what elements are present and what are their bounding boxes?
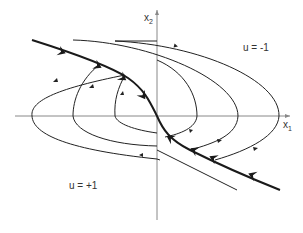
x2-axis-label: x2 — [144, 12, 153, 25]
u-minus-arrows — [174, 44, 258, 151]
x2-axis-arrow-icon — [155, 10, 159, 15]
u-plus-trajectories — [32, 64, 160, 160]
region-label-u-minus: u = -1 — [243, 42, 269, 53]
x1-axis-label: x1 — [283, 119, 292, 132]
x1-axis-arrow-icon — [285, 114, 290, 118]
switching-curve — [32, 40, 280, 190]
region-label-u-plus: u = +1 — [69, 180, 98, 191]
phase-portrait: x2 x1 u = -1 u = +1 — [0, 0, 303, 233]
